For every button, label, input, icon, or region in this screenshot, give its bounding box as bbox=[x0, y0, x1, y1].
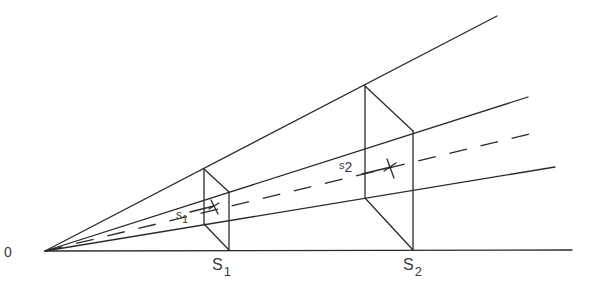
origin-label: 0 bbox=[4, 244, 12, 260]
frame-2-point-arrow bbox=[362, 167, 391, 174]
frame-1-top-edge bbox=[204, 169, 229, 192]
perspective-diagram: 0 s1 s2 S1 S2 bbox=[0, 0, 589, 290]
frame-1-base-subscript: 1 bbox=[224, 264, 231, 279]
lower-ray bbox=[45, 167, 555, 251]
frame-2-point-label: s2 bbox=[339, 159, 353, 175]
dashed-center-ray bbox=[45, 131, 542, 251]
frame-1-point-cross-b bbox=[209, 203, 219, 209]
frame-2-base-subscript: 2 bbox=[415, 264, 422, 279]
frame-2-base-letter: S bbox=[403, 256, 414, 273]
frame-1-point-subscript: 1 bbox=[182, 213, 188, 225]
frame-1-base-letter: S bbox=[212, 256, 223, 273]
frame-2-top-edge bbox=[365, 86, 413, 131]
upper-ray bbox=[45, 97, 528, 251]
frame-2-base-label: S2 bbox=[403, 256, 422, 279]
frame-2-point-subscript: 2 bbox=[345, 159, 353, 175]
frame-2-bottom-edge bbox=[365, 198, 413, 250]
frame-2 bbox=[362, 86, 413, 250]
frame-1 bbox=[190, 169, 229, 250]
top-ray bbox=[45, 16, 497, 251]
baseline bbox=[45, 250, 572, 251]
frame-1-point-label: s1 bbox=[176, 208, 188, 225]
frame-1-base-label: S1 bbox=[212, 256, 231, 279]
frame-1-bottom-edge bbox=[204, 224, 229, 250]
